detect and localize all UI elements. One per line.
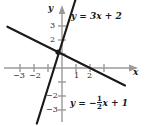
equation-label-line1: y = 3x + 2 [71, 12, 122, 21]
x-tick-label-1: 1 [74, 72, 79, 80]
y-axis-label: y [48, 4, 53, 13]
x-tick-label-neg3: −3 [13, 72, 25, 80]
x-tick-label-neg2: −2 [29, 72, 41, 80]
y-tick-label-neg2: −2 [46, 92, 58, 100]
y-tick-label-neg3: −3 [46, 106, 58, 114]
y-axis [59, 5, 66, 122]
y-tick-label-3: 3 [50, 22, 55, 30]
graph-figure: y x −3 −2 1 2 3 2 −2 −3 y = 3x + 2 y = −… [0, 0, 147, 126]
equation-label-line2: y = −12x + 1 [70, 95, 128, 110]
x-tick-label-2: 2 [87, 72, 92, 80]
line-y-equals-neg-half-x-plus-1 [7, 27, 125, 86]
x-axis-label: x [133, 68, 138, 77]
equation2-prefix: y = − [70, 98, 97, 108]
intersection-point-marker [55, 49, 60, 54]
equation2-suffix: x + 1 [102, 98, 127, 108]
y-tick-label-2: 2 [50, 36, 55, 44]
